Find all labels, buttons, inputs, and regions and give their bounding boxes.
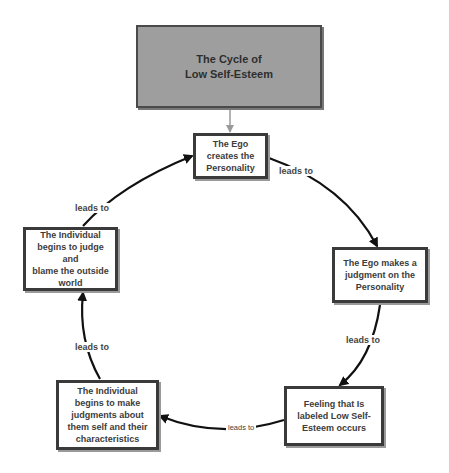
edge-label-self-judgments: leads to [73, 342, 111, 352]
edge-label-blame: leads to [73, 203, 111, 213]
edge-label-ego-judgment: leads to [344, 335, 382, 345]
edge-self-judgments-to-blame [82, 293, 100, 379]
edge-ego-judgment-to-feeling [340, 305, 380, 385]
title-node: The Cycle of Low Self-Esteem [136, 25, 322, 108]
node-ego-makes-judgment: The Ego makes a judgment on the Personal… [332, 247, 428, 303]
concept-map: The Cycle of Low Self-Esteem The Ego cre… [0, 0, 449, 473]
node-individual-blame-world: The Individual begins to judge and blame… [23, 227, 118, 291]
edge-feeling-to-self-judgments [160, 416, 284, 429]
node-feeling-low-self-esteem: Feeling that Is labeled Low Self- Esteem… [284, 386, 384, 446]
node-ego-creates-personality: The Ego creates the Personality [193, 133, 268, 179]
edge-label-ego-creates: leads to [277, 166, 315, 176]
edge-blame-to-ego-creates [83, 156, 192, 226]
edge-label-feeling: leads to [226, 423, 256, 432]
node-individual-self-judgments: The Individual begins to make judgments … [56, 380, 159, 450]
